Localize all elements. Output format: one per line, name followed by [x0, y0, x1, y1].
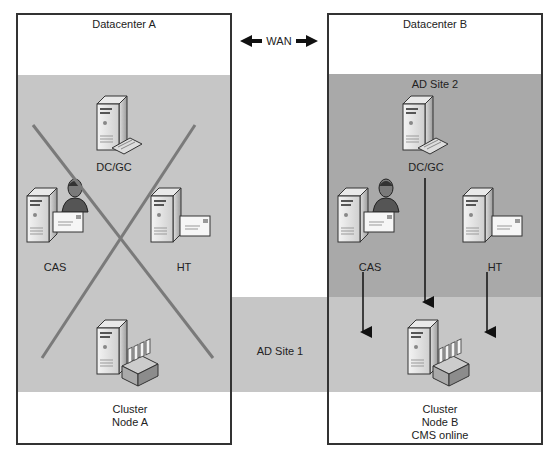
cluster-label-b: Cluster [400, 403, 480, 416]
cas-label-a: CAS [30, 261, 80, 274]
ht-label-a: HT [164, 261, 204, 274]
cluster-label-a: Cluster [90, 403, 170, 416]
datacenter-a-title: Datacenter A [16, 18, 232, 31]
ht-label-b: HT [475, 261, 515, 274]
ht-server-a-icon [151, 188, 181, 242]
datacenter-b-title: Datacenter B [327, 18, 543, 31]
wan-label: WAN [262, 35, 296, 48]
dc-gc-label-b: DC/GC [394, 161, 458, 174]
ad-site-2-label: AD Site 2 [327, 78, 543, 91]
cms-online-label: CMS online [400, 429, 480, 442]
dc-gc-label-a: DC/GC [82, 161, 146, 174]
ad-site-1-label: AD Site 1 [232, 345, 328, 358]
cas-label-b: CAS [345, 261, 395, 274]
diagram-graphics [0, 0, 555, 461]
node-a-label: Node A [90, 416, 170, 429]
ht-server-b-icon [463, 188, 493, 242]
node-b-label: Node B [400, 416, 480, 429]
